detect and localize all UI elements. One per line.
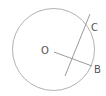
label-O: O xyxy=(41,45,49,56)
label-B: B xyxy=(94,64,101,75)
circle xyxy=(13,9,95,91)
label-C: C xyxy=(91,22,98,33)
geometry-diagram: O B C xyxy=(0,0,106,96)
line-through-C xyxy=(65,14,90,76)
radius-segment-OB xyxy=(54,52,92,66)
